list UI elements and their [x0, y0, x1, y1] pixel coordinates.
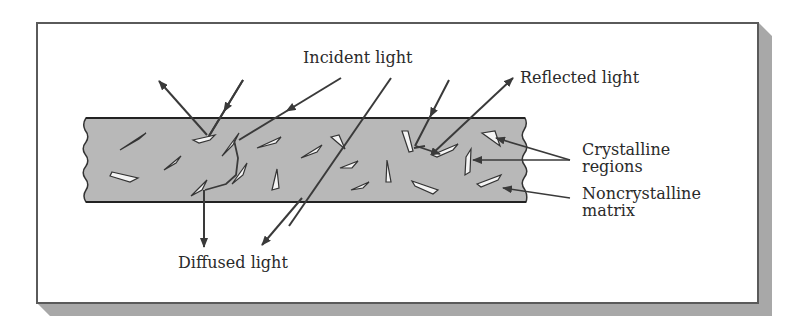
- label-reflected-light: Reflected light: [520, 68, 640, 87]
- polymer-slab: [83, 118, 527, 202]
- label-noncrystalline-matrix-2: matrix: [582, 201, 635, 220]
- label-crystalline-regions-2: regions: [582, 157, 643, 176]
- label-incident-light: Incident light: [303, 48, 413, 67]
- diagram-figure: Incident light Reflected light Crystalli…: [0, 0, 798, 323]
- label-diffused-light: Diffused light: [178, 253, 288, 272]
